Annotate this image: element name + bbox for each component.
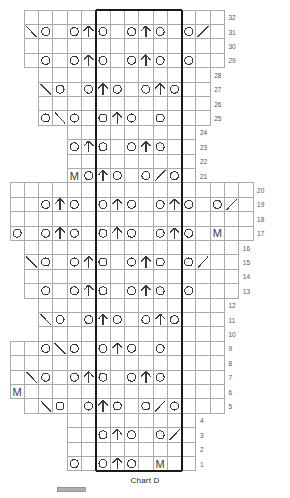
yarn-over-symbol [70,200,78,208]
row-number-label: 25 [214,115,222,122]
yarn-over-symbol [42,200,50,208]
center-double-decrease-symbol [84,256,94,267]
yarn-over-symbol [70,258,78,266]
yarn-over-symbol [42,287,50,295]
cdd-left-arm [55,228,60,233]
chart-row [24,53,224,67]
yarn-over-symbol [85,85,93,93]
yarn-over-symbol [213,200,221,208]
left-slant-decrease-symbol [41,314,51,325]
chart-row [39,298,225,312]
row-number-label: 18 [257,216,265,223]
yarn-over-symbol [185,229,193,237]
yarn-over-symbol [42,114,50,122]
cdd-right-arm [146,141,151,146]
right-slant-decrease-symbol [198,26,208,37]
center-double-decrease-symbol [141,372,151,383]
cdd-right-arm [160,314,165,319]
center-double-decrease-symbol [141,26,151,37]
cdd-right-arm [146,26,151,31]
chart-row [67,428,196,442]
yarn-over-symbol [70,344,78,352]
center-double-decrease-symbol [170,199,180,210]
chart-row [24,284,239,298]
row-outline [67,140,196,154]
cdd-right-arm [117,112,122,117]
yarn-over-symbol [42,56,50,64]
row-number-label: 4 [200,417,204,424]
cdd-right-arm [103,84,108,89]
row-outline [24,255,239,269]
yarn-over-symbol [70,460,78,468]
yarn-over-symbol [142,85,150,93]
chart-row [10,384,225,398]
cdd-right-arm [89,141,94,146]
row-number-label: 20 [257,187,265,194]
row-number-label: 26 [214,101,222,108]
yarn-over-symbol [85,316,93,324]
cdd-left-arm [55,199,60,204]
yarn-over-symbol [156,229,164,237]
chart-row [24,240,239,254]
cdd-right-arm [60,199,65,204]
row-outline [10,384,225,398]
yarn-over-symbol [42,258,50,266]
yarn-over-symbol [142,402,150,410]
yarn-over-symbol [42,344,50,352]
cdd-left-arm [84,26,89,31]
cdd-right-arm [89,26,94,31]
yarn-over-symbol [99,287,107,295]
row-outline [67,442,196,456]
chart-title: Chart D [0,476,290,485]
center-double-decrease-symbol [155,84,165,95]
row-number-label: 24 [200,129,208,136]
yarn-over-symbol [128,143,136,151]
yarn-over-symbol [56,402,64,410]
center-double-decrease-symbol [84,55,94,66]
chart-row [67,125,196,139]
yarn-over-symbol [185,56,193,64]
row-outline [24,284,239,298]
row-number-label: 15 [243,259,251,266]
yarn-over-symbol [128,287,136,295]
cdd-left-arm [141,372,146,377]
yarn-over-symbol [113,316,121,324]
yarn-over-symbol [70,229,78,237]
left-slant-decrease-symbol [55,343,65,354]
center-double-decrease-symbol [112,343,122,354]
center-double-decrease-symbol [98,84,108,95]
yarn-over-symbol [99,460,107,468]
yarn-over-symbol [185,258,193,266]
center-double-decrease-symbol [112,228,122,239]
cdd-left-arm [98,170,103,175]
cdd-left-arm [84,55,89,60]
left-slant-decrease-symbol [55,113,65,124]
yarn-over-symbol [99,229,107,237]
yarn-over-symbol [99,431,107,439]
row-outline [39,327,225,341]
row-number-label: 7 [229,374,233,381]
cdd-right-arm [146,256,151,261]
row-number-label: 23 [200,144,208,151]
cdd-left-arm [141,285,146,290]
row-number-label: 8 [229,360,233,367]
cdd-left-arm [112,343,117,348]
yarn-over-symbol [56,85,64,93]
yarn-over-symbol [99,200,107,208]
yarn-over-symbol [70,56,78,64]
center-double-decrease-symbol [55,228,65,239]
row-outline [67,154,196,168]
chart-row [24,24,224,38]
cdd-right-arm [89,55,94,60]
cdd-right-arm [146,55,151,60]
chart-row [67,154,196,168]
center-double-decrease-symbol [98,170,108,181]
cdd-right-arm [117,429,122,434]
center-double-decrease-symbol [55,199,65,210]
row-number-label: 17 [257,230,265,237]
yarn-over-symbol [170,402,178,410]
yarn-over-symbol [99,114,107,122]
yarn-over-symbol [156,373,164,381]
yarn-over-symbol [70,143,78,151]
cdd-right-arm [103,314,108,319]
